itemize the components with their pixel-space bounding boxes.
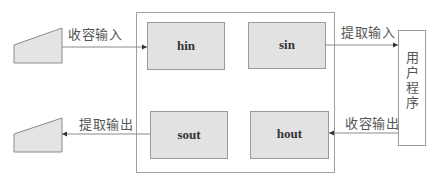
hin-label: hin — [147, 39, 225, 53]
output-extract-label: 提取输出 — [79, 118, 133, 132]
sout-label: sout — [150, 128, 228, 142]
input-collect-label: 收容输入 — [68, 28, 122, 42]
buffer-pool-diagram: hin sin sout hout 收容输入 提取输入 收容输出 提取输出 用户… — [0, 0, 435, 183]
user-program-label: 用户程序 — [404, 50, 420, 110]
sin-label: sin — [248, 38, 326, 52]
input-device-shape — [14, 28, 62, 63]
output-collect-label: 收容输出 — [345, 117, 399, 131]
input-extract-label: 提取输入 — [341, 26, 395, 40]
output-device-shape — [14, 118, 62, 152]
hout-label: hout — [250, 127, 329, 141]
